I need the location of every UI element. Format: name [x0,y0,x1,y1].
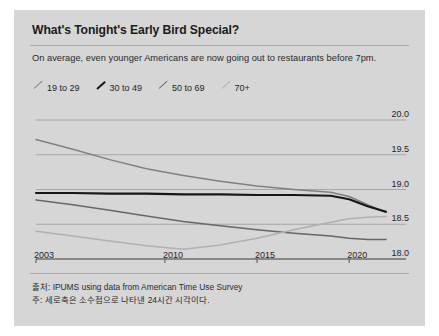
y-axis-tick-label: 19.0 [391,179,409,189]
x-axis-tick-label: 2010 [163,250,183,260]
y-axis-tick-label: 19.5 [391,144,409,154]
x-axis-tick-label: 2020 [347,250,367,260]
series-line-19-to-29 [36,139,386,212]
series-line-70+ [36,217,386,250]
series-line-50-to-69 [36,200,386,240]
series-line-30-to-49 [36,193,386,212]
y-axis-tick-label: 18.0 [391,248,409,258]
line-chart-svg [14,10,425,326]
y-axis-tick-label: 18.5 [391,213,409,223]
x-axis-tick-label: 2015 [255,250,275,260]
chart-card: What's Tonight's Early Bird Special? On … [14,10,425,326]
chart-plot-area: 18.018.519.019.520.02003201020152020 [14,10,425,326]
note-text: 주: 세로축은 소수점으로 나타낸 24시간 시각이다. [32,293,210,305]
x-axis-tick-label: 2003 [34,250,54,260]
y-axis-tick-label: 20.0 [391,109,409,119]
footer-divider [30,273,409,274]
source-text: 출처: IPUMS using data from American Time … [32,280,243,292]
